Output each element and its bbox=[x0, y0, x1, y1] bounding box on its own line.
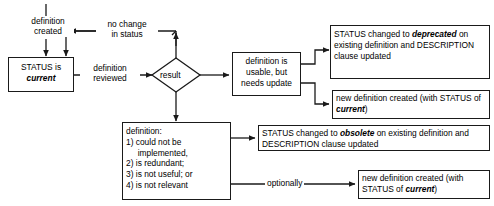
deprecated-emphasis: deprecated bbox=[412, 29, 457, 39]
problems-item-1-cont: implemented, bbox=[126, 148, 227, 159]
newdef2-emphasis: current bbox=[405, 184, 434, 194]
edge-label-no-change: no change in status bbox=[96, 19, 158, 40]
flowchart-diagram: definition created STATUS is current res… bbox=[0, 0, 494, 206]
entry-label-line1: definition bbox=[24, 16, 72, 26]
status-current-line2: current bbox=[12, 73, 70, 84]
node-usable-needs-update: definition is usable, but needs update bbox=[232, 52, 301, 96]
usable-line3: needs update bbox=[236, 78, 297, 89]
node-obsolete-update: STATUS changed to obsolete on existing d… bbox=[258, 125, 490, 151]
definition-reviewed-line1: definition bbox=[82, 63, 138, 73]
entry-label: definition created bbox=[22, 16, 74, 37]
node-status-current: STATUS is current bbox=[8, 57, 74, 92]
newdef2-seg3: ) bbox=[434, 184, 437, 194]
obsolete-emphasis: obsolete bbox=[340, 128, 374, 138]
problems-item-3: 3) is not useful; or bbox=[126, 169, 227, 180]
newdef1-emphasis: current bbox=[336, 104, 365, 114]
entry-label-line2: created bbox=[24, 26, 72, 36]
newdef1-seg1: new definition created (with STATUS of bbox=[336, 93, 481, 103]
no-change-line1: no change bbox=[98, 19, 156, 29]
problems-item-2: 2) is redundant; bbox=[126, 158, 227, 169]
definition-reviewed-line2: reviewed bbox=[82, 73, 138, 83]
no-change-line2: in status bbox=[98, 29, 156, 39]
node-new-definition-obsolete-path: new definition created (with STATUS of c… bbox=[358, 170, 490, 199]
edge-usable-to-newdef1 bbox=[301, 83, 329, 104]
usable-line2: usable, but bbox=[236, 67, 297, 78]
node-definition-problems: definition: 1) could not be implemented,… bbox=[122, 122, 231, 200]
edge-label-definition-reviewed: definition reviewed bbox=[80, 63, 140, 84]
problems-item-4: 4) is not relevant bbox=[126, 180, 227, 191]
deprecated-seg1: STATUS changed to bbox=[334, 29, 412, 39]
result-label: result bbox=[160, 70, 180, 80]
edge-usable-to-deprecated bbox=[301, 50, 329, 64]
node-new-definition-deprecated-path: new definition created (with STATUS of c… bbox=[332, 90, 490, 119]
problems-heading: definition: bbox=[126, 126, 227, 137]
usable-line1: definition is bbox=[236, 56, 297, 67]
status-current-line1: STATUS is bbox=[12, 62, 70, 73]
node-deprecated-update: STATUS changed to deprecated on existing… bbox=[330, 25, 490, 79]
obsolete-seg1: STATUS changed to bbox=[262, 128, 340, 138]
newdef1-seg3: ) bbox=[365, 104, 368, 114]
edge-label-optionally: optionally bbox=[265, 178, 304, 188]
problems-item-1: 1) could not be bbox=[126, 137, 227, 148]
